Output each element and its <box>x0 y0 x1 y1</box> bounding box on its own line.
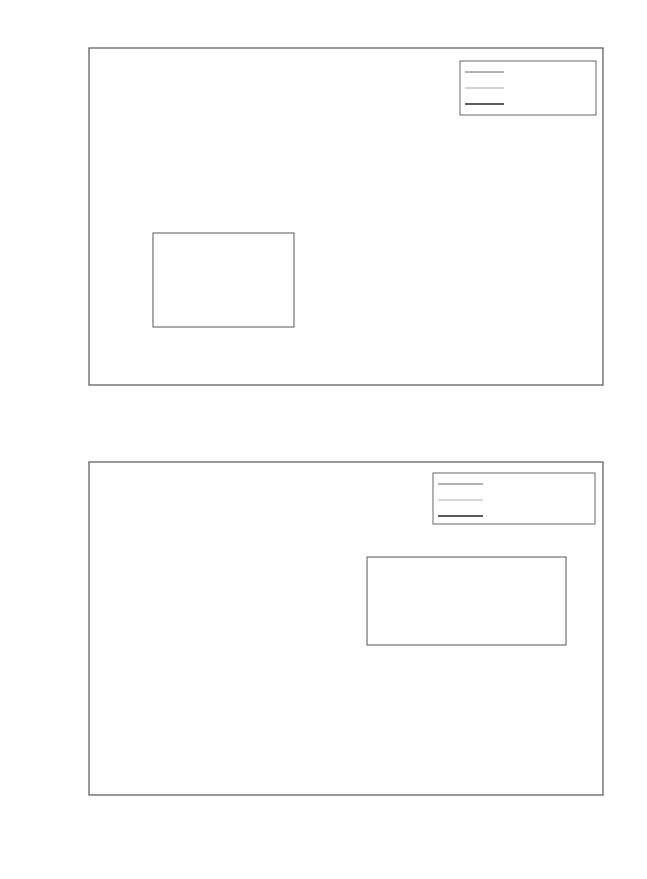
x1-legend <box>460 61 596 115</box>
x1-plot <box>89 48 603 385</box>
x1-inset <box>153 233 294 327</box>
x2-legend <box>433 473 595 524</box>
figure <box>0 0 647 879</box>
x2-inset <box>367 557 566 645</box>
x2-plot <box>89 462 603 795</box>
